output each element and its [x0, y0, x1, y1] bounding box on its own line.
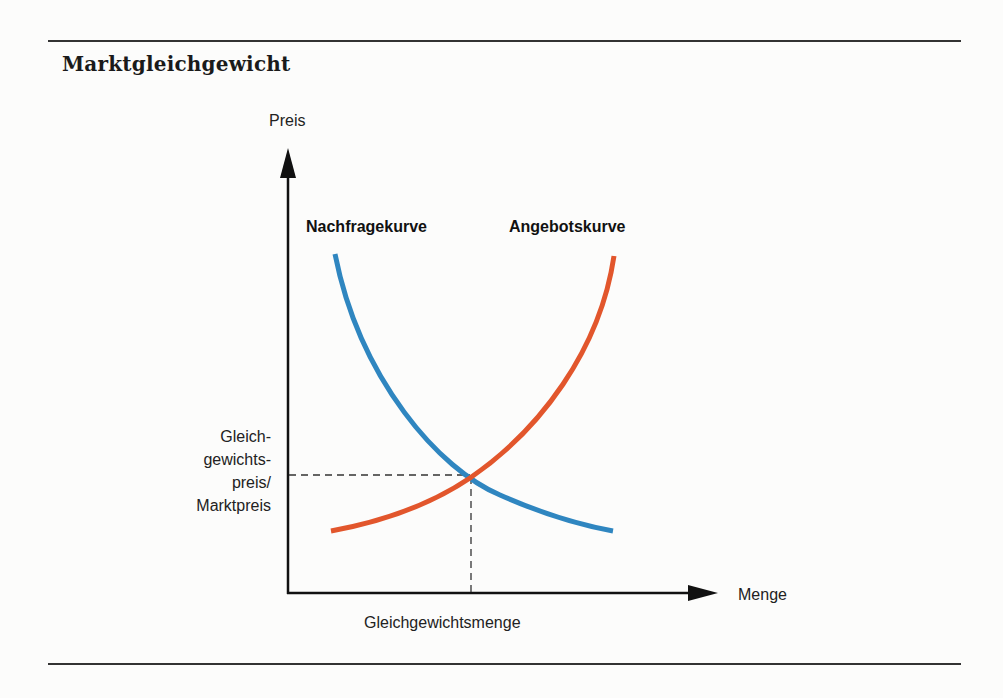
eq-price-label-1: Gleich- [220, 428, 271, 445]
x-axis-arrow-icon [688, 585, 718, 601]
demand-label: Nachfragekurve [306, 218, 427, 235]
eq-price-label-2: gewichts- [203, 451, 271, 468]
eq-price-label-3: preis/ [232, 474, 272, 491]
chart-area: Preis Menge Nachfragekurve Angebotskurve… [0, 0, 1003, 698]
y-axis-arrow-icon [280, 148, 296, 178]
eq-quantity-label: Gleichgewichtsmenge [364, 614, 521, 631]
eq-price-label-4: Marktpreis [196, 497, 271, 514]
supply-label: Angebotskurve [509, 218, 626, 235]
demand-curve [335, 254, 613, 531]
y-axis-label: Preis [269, 112, 305, 129]
bottom-rule [48, 663, 961, 665]
supply-curve [331, 256, 614, 531]
x-axis-label: Menge [738, 586, 787, 603]
